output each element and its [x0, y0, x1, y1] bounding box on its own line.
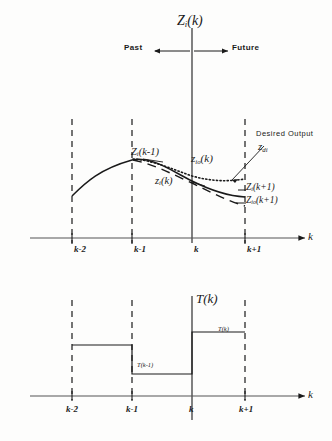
zdi-symbol-label: zdi [258, 141, 268, 153]
y-axis-label-bottom: T(k) [196, 292, 218, 305]
zio-k-label: zio(k) [191, 153, 213, 165]
x-axis-label-bottom: k [308, 389, 313, 400]
tick-label-bottom-0: k-2 [66, 405, 78, 414]
tick-label-bottom-1: k-1 [126, 405, 138, 414]
bottom-panel-axes [30, 296, 305, 420]
past-label: Past [124, 44, 143, 52]
curve-zdi-dotted [133, 159, 245, 181]
desired-output-label: Desired Output [256, 130, 313, 138]
curve-zio-dashed [133, 160, 245, 206]
tick-label-bottom-2: k [189, 405, 194, 414]
zi-kp1-label: Zi(k+1) [246, 183, 275, 193]
figure-canvas: Zi(k) Past Future Desired Output zdi Zi(… [0, 0, 332, 441]
tick-label-top-1: k-1 [134, 245, 146, 254]
step-waveform-Tk [72, 332, 245, 374]
tick-label-top-0: k-2 [74, 245, 86, 254]
step-label-tkm1: T(k-1) [137, 362, 153, 369]
diagram-svg [0, 0, 332, 441]
tick-label-top-3: k+1 [247, 245, 261, 254]
tick-label-top-2: k [194, 245, 199, 254]
zi-km1-label: Zi(k-1) [131, 147, 159, 158]
step-label-tk: T(k) [218, 326, 229, 333]
zio-kp1-label: Zio(k+1) [246, 196, 278, 206]
tick-label-bottom-3: k+1 [239, 405, 253, 414]
x-axis-label-top: k [308, 231, 313, 242]
zi-k-label: zi(k) [155, 176, 173, 187]
future-label: Future [232, 44, 259, 52]
y-axis-label-top: Zi(k) [177, 14, 203, 29]
bottom-panel-gridlines [72, 300, 245, 400]
